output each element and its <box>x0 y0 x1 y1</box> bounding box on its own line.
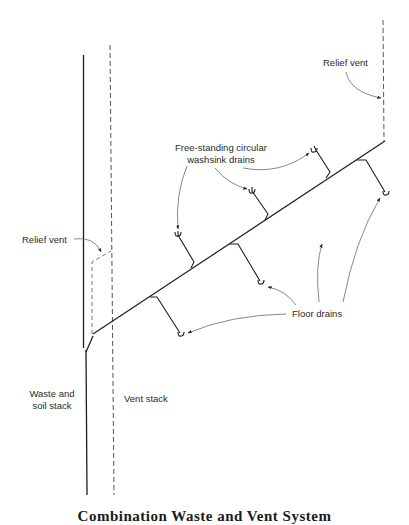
leader-floor-drain-2 <box>268 287 296 305</box>
washsink-drain-1 <box>178 231 194 268</box>
horizontal-waste-branch <box>93 141 385 334</box>
label-relief-vent-left: Relief vent <box>22 234 67 246</box>
label-washsink-line2: washsink drains <box>170 154 272 166</box>
label-waste-line1: Waste and <box>26 388 78 400</box>
relief-vent-right <box>383 20 384 141</box>
leader-relief-vent-left <box>74 239 101 252</box>
label-washsink-drains: Free-standing circular washsink drains <box>170 142 272 166</box>
leader-relief-vent-top <box>346 72 381 98</box>
figure-caption: Combination Waste and Vent System <box>0 508 409 525</box>
label-relief-vent-top: Relief vent <box>323 57 368 69</box>
leader-floor-drain-4 <box>343 198 380 302</box>
label-waste-soil-stack: Waste and soil stack <box>26 388 78 412</box>
label-waste-line2: soil stack <box>26 400 78 412</box>
leader-floor-drain-3 <box>318 244 322 302</box>
leader-lines <box>74 72 381 333</box>
vent-stack <box>110 45 114 495</box>
floor-drain-2 <box>229 244 260 281</box>
leader-washsink-1 <box>177 166 187 229</box>
leader-washsink-2 <box>215 168 247 189</box>
label-washsink-line1: Free-standing circular <box>170 142 272 154</box>
relief-vent-left <box>92 251 111 334</box>
label-vent-stack: Vent stack <box>124 393 168 405</box>
floor-drain-3 <box>357 160 385 192</box>
label-floor-drains: Floor drains <box>292 308 342 320</box>
leader-floor-drain-1 <box>188 314 286 333</box>
floor-drain-1 <box>150 297 180 333</box>
